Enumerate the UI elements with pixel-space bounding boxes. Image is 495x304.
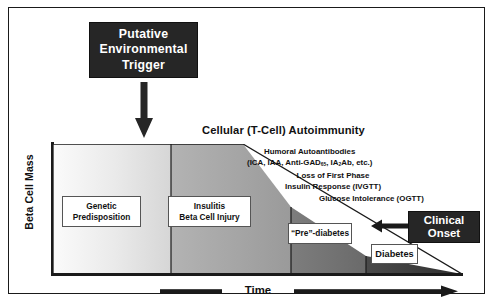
stage-insulitis-line2: Beta Cell Injury <box>179 212 239 222</box>
trigger-label-line2: Environmental <box>99 42 187 56</box>
stage-insulitis-line1: Insulitis <box>194 201 225 211</box>
annotation-cellular-autoimmunity: Cellular (T-Cell) Autoimmunity <box>202 124 365 136</box>
trigger-label-line1: Putative <box>119 27 168 41</box>
clinical-onset-left-arrow-icon <box>371 219 411 233</box>
stage-genetic-line2: Predisposition <box>73 212 131 222</box>
time-axis-row: Time <box>53 283 463 301</box>
onset-label-line2: Onset <box>428 227 460 239</box>
y-axis-label: Beta Cell Mass <box>23 146 35 238</box>
onset-label-line1: Clinical <box>424 214 465 226</box>
annotation-glucose-intolerance: Glucose Intolerance (OGTT) <box>319 194 424 203</box>
trigger-down-arrow-icon <box>135 82 153 138</box>
stage-label-diabetes: Diabetes <box>371 244 418 264</box>
annotation-humoral-ia: , IA <box>326 158 338 167</box>
stage-label-genetic-predisposition: Genetic Predisposition <box>62 196 141 227</box>
figure-canvas: Putative Environmental Trigger Beta Cell… <box>0 0 495 304</box>
annotation-loss-of-first-phase: Loss of First Phase Insulin Response (IV… <box>285 171 381 192</box>
trigger-label-line3: Trigger <box>122 58 165 72</box>
clinical-onset-box: Clinical Onset <box>408 211 480 243</box>
annotation-loss-line1: Loss of First Phase <box>285 171 381 182</box>
annotation-humoral-autoantibodies: Humoral Autoantibodies (ICA, IAA, Anti-G… <box>247 147 372 170</box>
trigger-label: Putative Environmental Trigger <box>99 27 187 74</box>
x-axis-label: Time <box>228 284 288 296</box>
annotation-humoral-line1: Humoral Autoantibodies <box>247 147 372 158</box>
stage-genetic-text: Genetic Predisposition <box>73 201 131 223</box>
onset-label: Clinical Onset <box>424 214 465 241</box>
stage-genetic-line1: Genetic <box>86 201 116 211</box>
x-axis-line <box>51 273 463 276</box>
stage-label-pre-diabetes: “Pre”-diabetes <box>288 223 352 244</box>
annotation-loss-line2: Insulin Response (IVGTT) <box>285 182 381 193</box>
annotation-humoral-line2: (ICA, IAA, Anti-GAD65, IA2Ab, etc.) <box>247 158 372 171</box>
annotation-humoral-ab: Ab, etc.) <box>341 158 372 167</box>
figure-frame: Putative Environmental Trigger Beta Cell… <box>8 7 485 294</box>
stage-insulitis-text: Insulitis Beta Cell Injury <box>179 201 239 223</box>
putative-environmental-trigger-box: Putative Environmental Trigger <box>89 22 198 78</box>
stage-label-insulitis: Insulitis Beta Cell Injury <box>168 196 251 227</box>
annotation-humoral-gad: (ICA, IAA, Anti-GAD <box>247 158 321 167</box>
